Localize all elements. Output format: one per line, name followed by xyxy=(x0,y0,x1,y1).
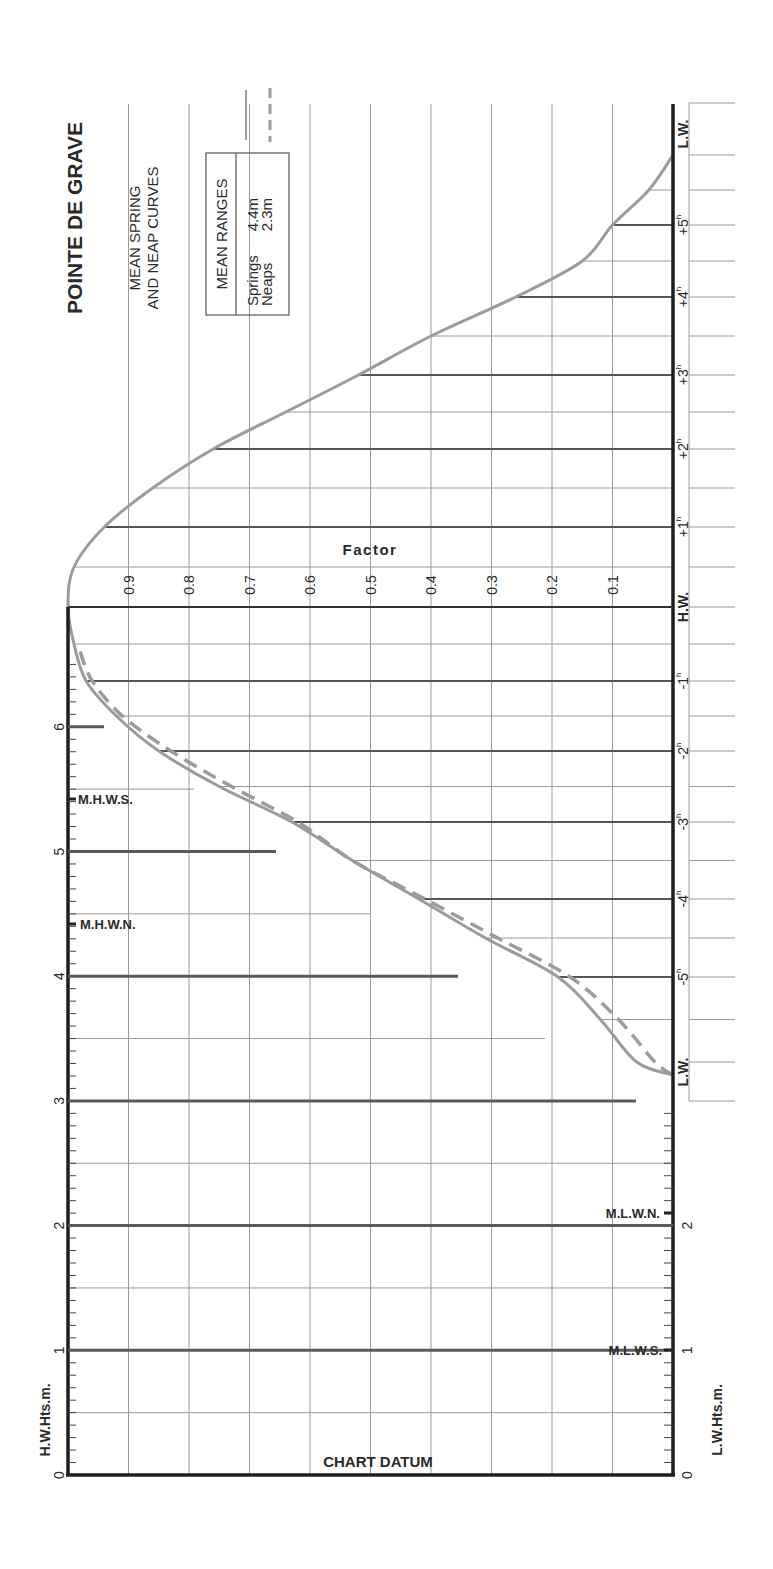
lw-height-tick-label: 0 xyxy=(679,1471,695,1479)
factor-tick-label: 0.4 xyxy=(423,575,439,595)
mlwn-marker: M.L.W.N. xyxy=(606,1206,660,1221)
lw-label-top: L.W. xyxy=(675,120,691,149)
hour-tick-label: -3h xyxy=(674,814,691,831)
hw-height-tick-label: 1 xyxy=(51,1346,67,1354)
hour-tick-label: +5h xyxy=(674,215,691,235)
factor-tick-label: 0.8 xyxy=(181,575,197,595)
factor-tick-label: 0.9 xyxy=(121,575,137,595)
mhwn-marker: M.H.W.N. xyxy=(80,917,136,932)
factor-tick-label: 0.5 xyxy=(363,575,379,595)
factor-tick-label: 0.3 xyxy=(484,575,500,595)
hw-height-tick-label: 5 xyxy=(51,847,67,855)
hw-label: H.W. xyxy=(675,592,691,622)
hour-tick-label: +1h xyxy=(674,517,691,537)
lw-height-tick-label: 2 xyxy=(679,1221,695,1229)
legend-header: MEAN RANGES xyxy=(213,179,230,290)
hw-height-tick-label: 6 xyxy=(51,723,67,731)
factor-gridlines xyxy=(129,104,613,1475)
hour-tick-label: -1h xyxy=(674,673,691,690)
lw-label-bottom: L.W. xyxy=(675,1058,691,1087)
legend-neaps-label: Neaps xyxy=(258,263,275,306)
time-axis-strip xyxy=(689,103,735,1101)
mlws-marker: M.L.W.S. xyxy=(609,1343,662,1358)
chart-title: POINTE DE GRAVE xyxy=(63,122,86,314)
factor-tick-label: 0.6 xyxy=(302,575,318,595)
hw-height-tick-label: 4 xyxy=(51,972,67,980)
lw-heights-axis-label: L.W.Hts.m. xyxy=(709,1384,725,1456)
subtitle-line1: MEAN SPRING xyxy=(126,185,143,290)
factor-tick-labels: 0.10.20.30.40.50.60.70.80.9 xyxy=(121,575,621,595)
neap-curve xyxy=(80,651,673,1075)
hour-tick-label: +4h xyxy=(674,287,691,307)
factor-tick-label: 0.2 xyxy=(544,575,560,595)
hw-height-tick-label: 0 xyxy=(51,1471,67,1479)
mhws-marker: M.H.W.S. xyxy=(78,792,133,807)
hour-tick-label: -5h xyxy=(674,969,691,986)
hour-tick-label: -2h xyxy=(674,743,691,760)
tidal-curve-chart: POINTE DE GRAVE MEAN SPRING AND NEAP CUR… xyxy=(0,0,773,1569)
chart-datum-label: CHART DATUM xyxy=(323,1453,433,1470)
hw-height-tick-label: 2 xyxy=(51,1221,67,1229)
hour-tick-label: -4h xyxy=(674,891,691,908)
factor-axis-label: Factor xyxy=(343,541,398,558)
hw-height-tick-label: 3 xyxy=(51,1097,67,1105)
hw-heights-axis-label: H.W.Hts.m. xyxy=(37,1383,53,1456)
hour-tick-label: +3h xyxy=(674,365,691,385)
lw-height-tick-label: 1 xyxy=(679,1346,695,1354)
hour-tick-label: +2h xyxy=(674,439,691,459)
factor-tick-label: 0.1 xyxy=(605,575,621,595)
factor-tick-label: 0.7 xyxy=(242,575,258,595)
legend-neaps-value: 2.3m xyxy=(258,198,275,231)
subtitle-line2: AND NEAP CURVES xyxy=(144,167,161,310)
time-gridlines xyxy=(74,190,673,1020)
